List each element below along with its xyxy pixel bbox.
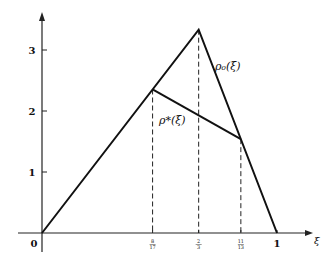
x-tick-label: 1 [274,238,281,249]
axes: 12308172311131 [18,12,313,252]
diagram-plot: 12308172311131 ρ₀(ξ) ρ*(ξ) ξ [0,0,334,261]
x-tick-fraction: 817 [149,238,155,250]
y-axis-arrow-icon [39,12,45,21]
rho0-label: ρ₀(ξ) [214,60,241,73]
curves [42,30,277,233]
fraction-denominator: 13 [238,244,244,250]
x-axis-label: ξ [314,235,320,246]
fraction-denominator: 3 [197,244,200,250]
y-tick-label: 1 [29,167,36,178]
fraction-denominator: 17 [149,244,155,250]
x-axis-arrow-icon [305,230,313,236]
y-tick-label: 2 [29,106,36,117]
rho-star-label: ρ*(ξ) [158,114,186,127]
rho0-curve [42,30,277,233]
x-tick-fraction: 1113 [238,238,244,250]
y-tick-label: 3 [29,45,36,56]
x-tick-fraction: 23 [196,238,202,250]
x-tick-label: 0 [31,238,38,249]
labels: ρ₀(ξ) ρ*(ξ) ξ [158,60,320,246]
